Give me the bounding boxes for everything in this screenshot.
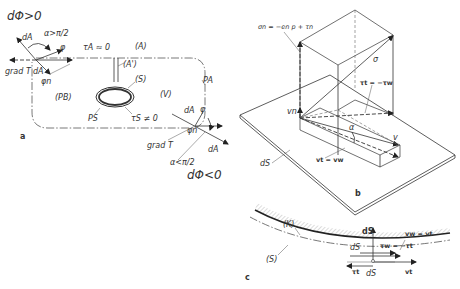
- dA-label-bottom-2: dA: [208, 145, 219, 154]
- phin-label-bottom: φn: [187, 126, 197, 135]
- angle-acute-label: α<π/2: [170, 158, 195, 167]
- upper-box-top: [300, 10, 393, 65]
- dS-label-b: dS: [260, 159, 270, 168]
- v-label: v: [393, 133, 398, 142]
- normal-line-bottom: [172, 114, 228, 144]
- vn-label: vn: [287, 107, 297, 116]
- acute-leader: [178, 132, 205, 160]
- grad-label-bottom: grad T: [147, 141, 174, 150]
- tau-t-label: τt = −τw: [360, 79, 393, 87]
- phi-label-top: φ: [60, 43, 66, 52]
- inner-body-outer: [96, 87, 134, 107]
- grad-label-top: grad T: [5, 67, 32, 76]
- condition-positive-flux: dΦ>0: [7, 9, 42, 23]
- angle-arc-bottom: [208, 118, 211, 130]
- dA-label-bottom: dA: [184, 106, 195, 115]
- alpha-label: α: [349, 123, 355, 132]
- condition-negative-flux: dΦ<0: [187, 168, 222, 182]
- dS-leader-b: [272, 150, 290, 163]
- region-A-prime-label: (A'): [123, 60, 137, 69]
- region-A-label: (A): [135, 42, 147, 51]
- panel-b-label: b: [355, 189, 361, 198]
- tau-w-label: τw = −τt: [380, 242, 413, 250]
- S-leader: [278, 245, 288, 255]
- sigma-label: σ: [373, 55, 379, 64]
- panel-a: dΦ>0 dA α>π/2 φ grad T dA φn τA ≈ 0 (A) …: [5, 9, 228, 182]
- tau-A-label: τA ≈ 0: [83, 43, 110, 52]
- sigma-n-label: σn = −en p + τn: [258, 23, 313, 31]
- PS-label: PS: [88, 114, 98, 123]
- K-leader: [295, 228, 300, 235]
- region-S-leader: [128, 82, 135, 88]
- tau-t-label-c: τt: [352, 268, 359, 276]
- panel-b: σn = −en p + τn σ τt = −τw vn α v vt = v…: [240, 10, 455, 215]
- surface-plate: [240, 75, 455, 212]
- inner-body-inner: [99, 89, 131, 105]
- region-V-label: (V): [160, 90, 172, 99]
- figure-canvas: dΦ>0 dA α>π/2 φ grad T dA φn τA ≈ 0 (A) …: [0, 0, 460, 289]
- vw-label: vw = vt: [405, 230, 433, 238]
- vt-label-c: vt: [405, 268, 412, 276]
- point-marker: [372, 260, 375, 263]
- phi-label-bottom: φ: [200, 105, 206, 114]
- dA-label-top: dA: [22, 33, 33, 42]
- dA-label-top-2: dA: [33, 67, 44, 76]
- panel-c: (K) (S) dS dS τw = −τt vw = vt τt dS vt …: [245, 203, 450, 282]
- angle-arc-top: [28, 43, 50, 50]
- angle-obtuse-label: α>π/2: [44, 29, 69, 38]
- S-label: (S): [266, 255, 277, 264]
- tau-S-label: τS ≠ 0: [131, 114, 158, 123]
- sigma-n-leader: [284, 32, 300, 52]
- phi-arrow-top: [36, 50, 62, 60]
- dS-lower-label: dS: [366, 269, 376, 278]
- dS-upper-label: dS: [350, 243, 360, 252]
- region-S-label: (S): [135, 75, 146, 84]
- PA-label: PA: [203, 76, 213, 85]
- phin-label-top: φn: [41, 77, 51, 86]
- phin-leader-top: [50, 64, 70, 74]
- dS-vector-label: dS: [362, 227, 374, 236]
- K-label: (K): [283, 220, 295, 229]
- region-PB-label: (PB): [55, 93, 72, 102]
- panel-a-label: a: [20, 132, 25, 141]
- panel-c-label: c: [245, 273, 250, 282]
- vt-label: vt = vw: [316, 156, 344, 164]
- tau-S-leader: [125, 107, 132, 114]
